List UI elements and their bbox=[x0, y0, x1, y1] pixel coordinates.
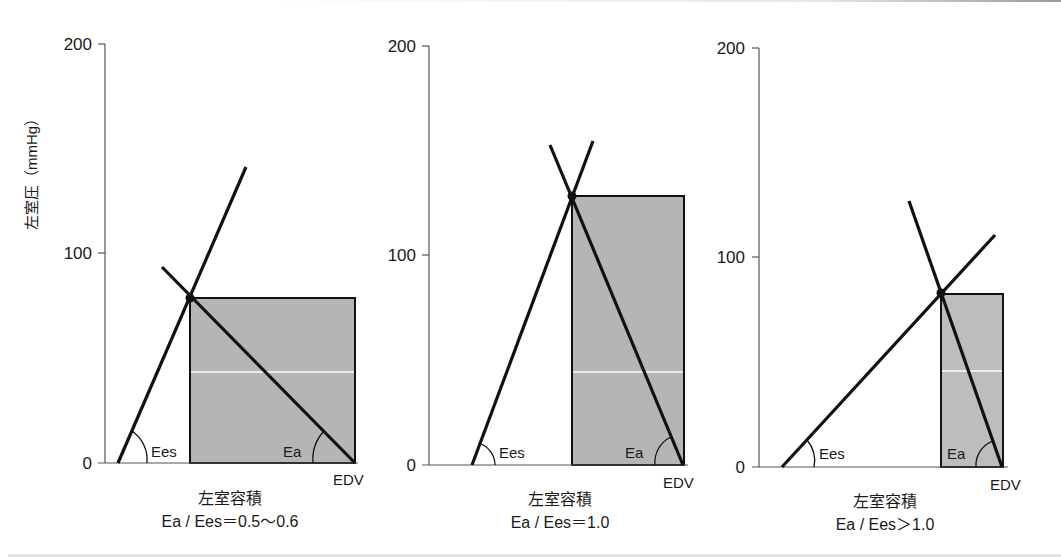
ratio-caption-3: Ea / Ees＞1.0 bbox=[785, 511, 985, 535]
tick-label-100: 100 bbox=[388, 246, 416, 265]
tick-label-200: 200 bbox=[388, 37, 416, 56]
tick-label-0: 0 bbox=[83, 454, 92, 473]
ea-label: Ea bbox=[283, 443, 302, 460]
panel-3: 200 100 0 Ees Ea EDV bbox=[717, 39, 1021, 493]
x-axis-label-1: 左室容積 bbox=[160, 485, 300, 509]
tick-label-0: 0 bbox=[407, 456, 416, 475]
ratio-caption-1: Ea / Ees＝0.5〜0.6 bbox=[120, 508, 340, 532]
ees-angle-arc bbox=[807, 440, 815, 467]
tick-label-100: 100 bbox=[64, 244, 92, 263]
pv-loop-figure: 200 100 0 Ees Ea EDV 200 100 0 Ees Ea ED… bbox=[0, 0, 1061, 557]
x-axis-label-3: 左室容積 bbox=[815, 488, 955, 512]
ea-label: Ea bbox=[947, 445, 966, 462]
end-systolic-point bbox=[937, 289, 946, 298]
ratio-caption-2: Ea / Ees＝1.0 bbox=[460, 509, 660, 533]
ees-label: Ees bbox=[819, 445, 845, 462]
ees-angle-arc bbox=[481, 444, 495, 465]
edv-label: EDV bbox=[990, 476, 1021, 493]
edv-label: EDV bbox=[663, 474, 694, 491]
panel-1: 200 100 0 Ees Ea EDV bbox=[64, 35, 364, 488]
x-axis-label-2: 左室容積 bbox=[490, 486, 630, 510]
ees-angle-arc bbox=[132, 431, 147, 463]
ea-label: Ea bbox=[625, 444, 644, 461]
end-systolic-point bbox=[186, 294, 195, 303]
tick-label-200: 200 bbox=[717, 39, 745, 58]
end-systolic-point bbox=[568, 192, 577, 201]
ees-label: Ees bbox=[499, 444, 525, 461]
tick-label-200: 200 bbox=[64, 35, 92, 54]
tick-label-0: 0 bbox=[736, 458, 745, 477]
ees-label: Ees bbox=[151, 443, 177, 460]
panel-2: 200 100 0 Ees Ea EDV bbox=[388, 37, 694, 491]
edv-label: EDV bbox=[333, 471, 364, 488]
tick-label-100: 100 bbox=[717, 248, 745, 267]
